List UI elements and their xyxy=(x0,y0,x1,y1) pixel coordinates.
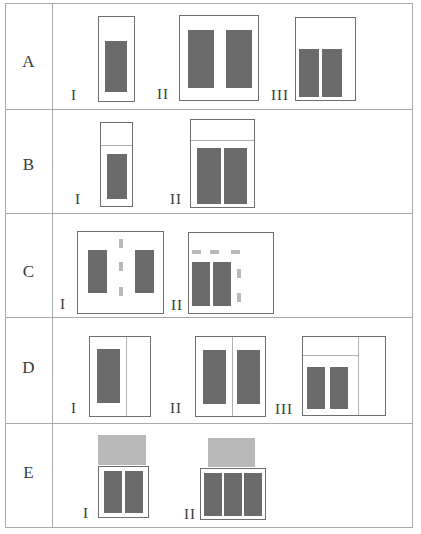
frame-c-2 xyxy=(188,232,274,314)
table-border-bottom xyxy=(5,527,413,528)
mullion-line xyxy=(358,337,359,415)
variant-label-b-2: II xyxy=(170,192,182,207)
label-column-divider xyxy=(52,3,53,528)
row-label-d: D xyxy=(5,358,52,378)
panel xyxy=(107,154,127,199)
variant-label-a-3: III xyxy=(271,88,289,103)
panel xyxy=(299,49,319,97)
dashed-divider-segment xyxy=(237,269,241,278)
panel xyxy=(97,349,120,403)
panel xyxy=(197,148,221,204)
upper-light-panel-e-2 xyxy=(208,438,255,467)
frame-d-3 xyxy=(302,336,386,416)
variant-label-e-2: II xyxy=(184,507,196,522)
frame-b-1 xyxy=(100,122,133,207)
panel xyxy=(192,262,210,306)
mullion-line xyxy=(232,337,233,416)
frame-b-2 xyxy=(190,119,255,208)
panel xyxy=(237,350,260,404)
transom-line xyxy=(191,140,254,141)
panel xyxy=(125,471,143,513)
row-label-c: C xyxy=(5,262,52,282)
panel xyxy=(213,262,231,306)
panel xyxy=(104,471,122,513)
dashed-divider-segment xyxy=(231,250,240,254)
dashed-divider-segment xyxy=(210,250,219,254)
frame-c-1 xyxy=(77,231,164,314)
frame-a-3 xyxy=(295,17,356,101)
dashed-divider-segment xyxy=(237,293,241,302)
transom-line xyxy=(303,355,359,356)
variant-label-a-2: II xyxy=(157,87,169,102)
row-label-b: B xyxy=(5,155,52,175)
frame-e-2 xyxy=(200,468,266,520)
panel xyxy=(307,367,325,409)
frame-d-2 xyxy=(195,336,266,417)
variant-label-d-1: I xyxy=(71,401,77,416)
variant-label-b-1: I xyxy=(75,192,81,207)
panel xyxy=(224,148,247,204)
dashed-divider-segment xyxy=(192,250,201,254)
variant-label-e-1: I xyxy=(83,506,89,521)
frame-a-2 xyxy=(179,15,259,101)
variant-label-c-1: I xyxy=(60,297,66,312)
panel xyxy=(226,30,252,88)
panel xyxy=(204,473,222,516)
variant-label-c-2: II xyxy=(171,298,183,313)
row-divider-4 xyxy=(5,423,413,424)
frame-e-1 xyxy=(98,466,149,518)
frame-a-1 xyxy=(98,16,135,102)
panel xyxy=(88,250,107,293)
upper-light-panel-e-1 xyxy=(98,435,146,465)
dashed-divider-segment xyxy=(119,262,123,271)
panel xyxy=(203,350,226,404)
panel xyxy=(224,473,242,516)
panel xyxy=(188,30,214,88)
panel xyxy=(135,250,154,293)
panel xyxy=(244,473,262,516)
panel xyxy=(330,367,348,409)
dashed-divider-segment xyxy=(119,239,123,248)
panel xyxy=(105,41,127,92)
row-label-a: A xyxy=(5,52,52,72)
frame-d-1 xyxy=(89,336,151,417)
row-label-e: E xyxy=(5,463,52,483)
transom-line xyxy=(101,145,132,146)
mullion-line xyxy=(126,337,127,416)
row-divider-2 xyxy=(5,213,413,214)
row-divider-1 xyxy=(5,109,413,110)
table-border-right xyxy=(412,3,413,528)
table-border-top xyxy=(5,3,413,4)
variant-label-a-1: I xyxy=(71,88,77,103)
variant-label-d-2: II xyxy=(170,401,182,416)
dashed-divider-segment xyxy=(119,287,123,296)
row-divider-3 xyxy=(5,317,413,318)
panel xyxy=(322,49,342,97)
variant-label-d-3: III xyxy=(275,402,293,417)
